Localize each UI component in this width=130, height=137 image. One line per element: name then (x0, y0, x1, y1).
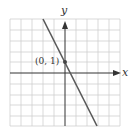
point-label: (0, 1) (35, 56, 59, 66)
x-axis-label: x (122, 66, 128, 79)
axes (10, 25, 118, 126)
point-marker (63, 60, 67, 64)
graph-canvas (0, 0, 130, 137)
y-axis-arrow-icon (62, 21, 68, 29)
y-axis-label: y (61, 4, 67, 17)
